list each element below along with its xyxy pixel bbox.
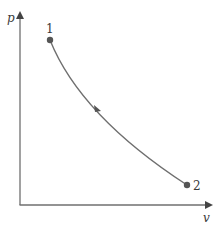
state-point-2	[184, 182, 190, 188]
v-axis-label: v	[203, 211, 210, 225]
state-label-2: 2	[193, 179, 201, 193]
process-curve	[50, 40, 187, 185]
pv-diagram: p v 1 2	[0, 0, 220, 225]
direction-arrow-icon	[94, 105, 101, 112]
state-point-1	[47, 37, 53, 43]
p-axis-label: p	[7, 11, 15, 25]
state-label-1: 1	[46, 22, 54, 36]
